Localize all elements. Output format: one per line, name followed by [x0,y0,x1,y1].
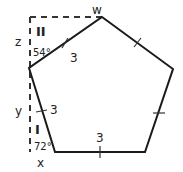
label-side-bottom: 3 [96,131,104,145]
label-side-top-left: 3 [70,51,78,65]
pentagon-diagram: w z y x II I 54° 72° 3 3 3 [0,0,183,172]
tick-top-left [62,38,68,48]
label-side-left: 3 [50,103,58,117]
label-x: x [37,156,44,170]
label-y: y [15,104,22,118]
label-region-I: I [35,122,40,137]
diagram-canvas: w z y x II I 54° 72° 3 3 3 [0,0,183,172]
label-angle-72: 72° [34,141,52,152]
label-region-II: II [36,24,46,39]
label-z: z [15,35,21,49]
label-angle-54: 54° [33,47,51,58]
label-w: w [92,3,102,17]
